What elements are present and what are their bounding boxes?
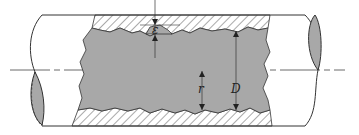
pipe-right-opening [309,15,322,70]
roughness-label: ε [152,23,158,37]
diameter-label: D [230,82,241,96]
pipe-diagram: ε r D [0,0,359,135]
fluid-core [78,27,270,114]
